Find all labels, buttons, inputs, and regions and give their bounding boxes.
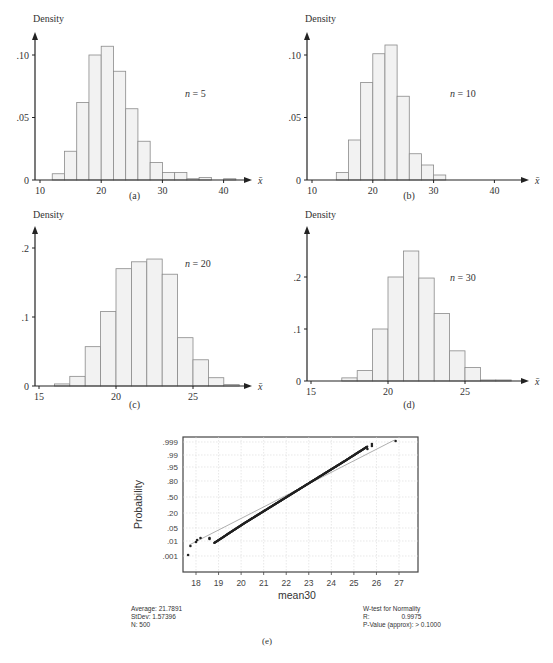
histogram-chart-b: 0.05.1010203040Densityx̄n = 10(b): [272, 0, 553, 205]
y-tick-label: .95: [167, 463, 179, 472]
stat-n: N: 500: [131, 621, 182, 629]
histogram-bar: [178, 338, 193, 386]
histogram-bar: [450, 351, 465, 381]
x-tick-label: 25: [188, 391, 198, 402]
histogram-bar: [421, 165, 433, 180]
x-axis-arrow-icon: [521, 177, 529, 183]
x-axis-label: x̄: [257, 381, 263, 392]
y-axis-arrow-icon: [32, 32, 38, 40]
y-tick-label: 0: [24, 175, 29, 186]
histogram-bar: [89, 55, 101, 180]
x-axis-label: x̄: [257, 175, 263, 186]
sample-size-annotation: n = 30: [450, 272, 476, 283]
y-tick-label: .001: [162, 552, 178, 561]
y-tick-label: .10: [289, 50, 302, 61]
histogram-bar: [85, 347, 100, 386]
histogram-bar: [357, 371, 372, 381]
y-tick-label: .10: [17, 50, 30, 61]
y-tick-label: .01: [167, 537, 179, 546]
histogram-bar: [126, 109, 138, 180]
histogram-bar: [131, 262, 146, 386]
histogram-bar: [208, 378, 223, 386]
histogram-bar: [434, 175, 446, 180]
y-axis-label: Probability: [132, 479, 144, 529]
histogram-bar: [64, 151, 76, 180]
data-point: [394, 440, 397, 443]
x-tick-label: 23: [304, 578, 314, 588]
y-tick-label: .05: [17, 112, 30, 123]
x-tick-label: 10: [35, 185, 45, 196]
x-tick-label: 26: [372, 578, 382, 588]
y-axis-label: Density: [33, 209, 64, 220]
histogram-bar: [70, 376, 85, 386]
r-label: R:: [363, 613, 370, 620]
y-axis-arrow-icon: [32, 226, 38, 234]
y-tick-label: 0: [296, 376, 301, 387]
x-tick-label: 30: [157, 185, 167, 196]
histogram-panel-d: 0.1.2152025Densityx̄n = 30(d): [272, 205, 553, 415]
probability-plot-panel: .001.01.05.20.50.80.95.99.99918192021222…: [120, 425, 440, 600]
histogram-chart-c: 0.1.2152025Densityx̄n = 20(c): [0, 205, 276, 415]
x-axis-label: x̄: [534, 175, 540, 186]
data-point: [366, 448, 369, 451]
y-tick-label: .50: [167, 493, 179, 502]
histogram-bar: [150, 163, 162, 181]
x-tick-label: 18: [191, 578, 201, 588]
x-axis-label: mean30: [278, 589, 316, 600]
sample-size-annotation: n = 10: [450, 88, 476, 99]
x-tick-label: 40: [489, 185, 499, 196]
histogram-bar: [336, 173, 348, 181]
histogram-bar: [397, 96, 409, 180]
summary-stats-left: Average: 21.7891 StDev: 1.57396 N: 500: [131, 605, 182, 629]
histogram-bar: [361, 83, 373, 181]
y-tick-label: 0: [24, 381, 29, 392]
histogram-bar: [403, 251, 418, 381]
y-tick-label: .1: [294, 324, 302, 335]
y-tick-label: .05: [289, 112, 302, 123]
histogram-panel-a: 0.05.1010203040Densityx̄n = 5(a): [0, 0, 276, 205]
histogram-bar: [175, 173, 187, 181]
normal-probability-plot: .001.01.05.20.50.80.95.99.99918192021222…: [120, 425, 440, 600]
sample-size-annotation: n = 5: [185, 88, 206, 99]
histogram-bar: [138, 141, 150, 180]
x-axis-arrow-icon: [244, 383, 252, 389]
x-tick-label: 40: [219, 185, 229, 196]
data-point: [366, 446, 368, 448]
histogram-bar: [77, 103, 89, 181]
x-tick-label: 21: [259, 578, 269, 588]
data-point: [187, 554, 190, 557]
y-tick-label: .80: [167, 477, 179, 486]
x-tick-label: 20: [236, 578, 246, 588]
panel-caption-e: (e): [262, 636, 272, 646]
stat-average: Average: 21.7891: [131, 605, 182, 613]
x-axis-arrow-icon: [521, 378, 529, 384]
histogram-bar: [147, 259, 162, 386]
r-value: 0.9975: [402, 613, 422, 620]
histogram-panel-b: 0.05.1010203040Densityx̄n = 10(b): [272, 0, 553, 205]
histogram-bar: [162, 274, 177, 386]
sample-size-annotation: n = 20: [185, 258, 211, 269]
panel-caption: (c): [129, 399, 140, 411]
y-tick-label: .05: [167, 524, 179, 533]
x-tick-label: 20: [383, 386, 393, 397]
panel-caption: (a): [129, 190, 140, 202]
histogram-bar: [388, 277, 403, 381]
data-point: [371, 443, 374, 446]
y-tick-label: 0: [296, 175, 301, 186]
y-axis-arrow-icon: [304, 32, 310, 40]
x-tick-label: 15: [306, 386, 316, 397]
x-tick-label: 24: [327, 578, 337, 588]
histogram-bar: [52, 174, 64, 180]
normality-test-stats: W-test for Normality R:0.9975 P-Value (a…: [363, 605, 441, 629]
histogram-panel-c: 0.1.2152025Densityx̄n = 20(c): [0, 205, 276, 415]
data-point: [199, 537, 202, 540]
y-tick-label: .999: [162, 438, 178, 447]
x-tick-label: 20: [111, 391, 121, 402]
x-axis-arrow-icon: [244, 177, 252, 183]
x-tick-label: 22: [281, 578, 291, 588]
y-tick-label: .99: [167, 451, 179, 460]
y-axis-label: Density: [33, 13, 64, 24]
stat-stdev: StDev: 1.57396: [131, 613, 182, 621]
histogram-bar: [162, 173, 174, 181]
histogram-bar: [101, 46, 113, 180]
